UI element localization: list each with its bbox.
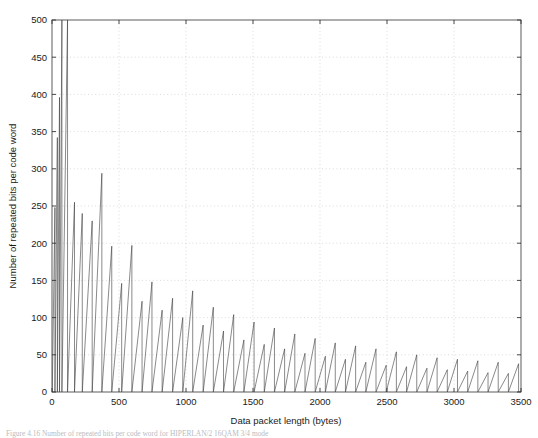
y-tick-label: 250	[31, 200, 47, 211]
chart-plot: 0500100015002000250030003500050100150200…	[0, 0, 538, 438]
y-tick-label: 350	[31, 126, 47, 137]
figure-caption: Figure 4.16 Number of repeated bits per …	[6, 429, 536, 438]
x-tick-label: 0	[49, 396, 54, 407]
figure-container: 0500100015002000250030003500050100150200…	[0, 0, 538, 438]
y-tick-label: 100	[31, 312, 47, 323]
y-tick-label: 0	[42, 386, 47, 397]
x-tick-label: 2000	[309, 396, 330, 407]
y-tick-label: 200	[31, 238, 47, 249]
y-axis-label: Number of repeated bits per code word	[7, 124, 18, 289]
x-tick-label: 500	[111, 396, 127, 407]
x-tick-label: 3500	[510, 396, 531, 407]
x-tick-label: 1000	[175, 396, 196, 407]
y-tick-label: 500	[31, 14, 47, 25]
y-tick-label: 300	[31, 163, 47, 174]
x-tick-label: 3000	[443, 396, 464, 407]
y-tick-label: 50	[36, 349, 47, 360]
y-tick-label: 150	[31, 275, 47, 286]
x-tick-label: 2500	[376, 396, 397, 407]
x-tick-label: 1500	[242, 396, 263, 407]
y-tick-label: 400	[31, 89, 47, 100]
x-axis-label: Data packet length (bytes)	[231, 415, 342, 426]
y-tick-label: 450	[31, 52, 47, 63]
